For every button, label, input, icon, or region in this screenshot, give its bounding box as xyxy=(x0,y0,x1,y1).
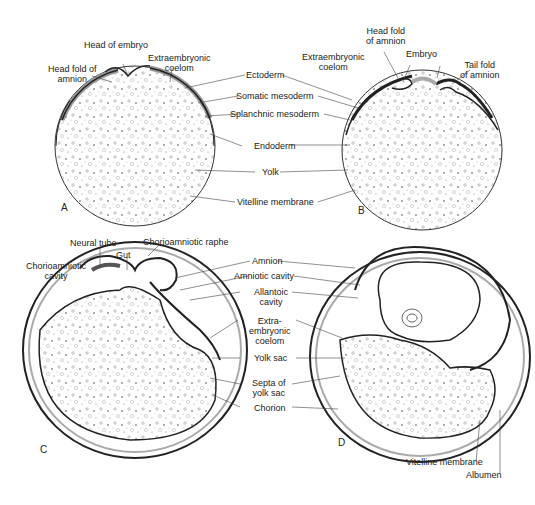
label-somatic-mesoderm: Somatic mesoderm xyxy=(236,91,314,101)
label-extraembryonic-coelom-c: Extra- embryonic coelom xyxy=(249,316,291,346)
panel-label-a: A xyxy=(61,202,68,213)
panel-d-diagram xyxy=(310,247,530,462)
panel-label-c: C xyxy=(40,444,47,455)
label-albumen: Albumen xyxy=(466,470,502,480)
label-head-fold-of-amnion-b: Head fold of amnion xyxy=(366,26,406,46)
label-gut: Gut xyxy=(116,250,131,260)
label-allantoic-cavity: Allantoic cavity xyxy=(254,287,288,307)
label-endoderm: Endoderm xyxy=(254,141,296,151)
label-extraembryonic-coelom-a: Extraembryonic coelom xyxy=(148,53,211,73)
label-neural-tube: Neural tube xyxy=(70,238,117,248)
label-amniotic-cavity: Amniotic cavity xyxy=(234,271,294,281)
label-tail-fold-of-amnion: Tail fold of amnion xyxy=(460,60,500,80)
label-chorioamniotic-cavity: Chorioamniotic cavity xyxy=(26,261,86,281)
panel-b-diagram xyxy=(342,70,502,230)
label-splanchnic-mesoderm: Splanchnic mesoderm xyxy=(230,109,319,119)
label-head-fold-of-amnion-a: Head fold of amnion xyxy=(48,64,97,84)
label-amnion: Amnion xyxy=(252,256,283,266)
label-chorion: Chorion xyxy=(254,403,286,413)
panel-label-d: D xyxy=(338,437,345,448)
label-head-of-embryo: Head of embryo xyxy=(84,40,148,50)
label-vitelline-membrane: Vitelline membrane xyxy=(237,197,314,207)
label-ectoderm: Ectoderm xyxy=(246,70,285,80)
label-yolk: Yolk xyxy=(262,167,279,177)
panel-label-b: B xyxy=(358,205,365,216)
label-chorioamniotic-raphe: Chorioamniotic raphe xyxy=(143,237,229,247)
label-septa-of-yolk-sac: Septa of yolk sac xyxy=(252,378,286,398)
label-extraembryonic-coelom-b: Extraembryonic coelom xyxy=(302,52,365,72)
label-embryo: Embryo xyxy=(406,49,437,59)
label-vitelline-membrane-d: Vitelline membrane xyxy=(406,457,483,467)
label-yolk-sac: Yolk sac xyxy=(254,353,287,363)
panel-a-diagram xyxy=(55,66,215,226)
